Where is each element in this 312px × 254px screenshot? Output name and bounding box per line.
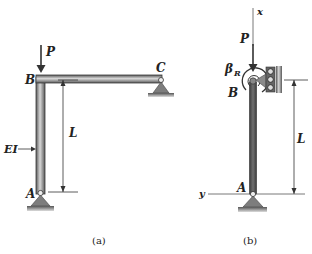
label-p: P (45, 45, 56, 59)
roller-guide-icon (256, 66, 282, 93)
label-b: B (227, 86, 238, 100)
label-y: y (198, 188, 206, 199)
label-p: P (239, 32, 250, 46)
structural-diagram: P B C L EI A (a) (0, 0, 312, 254)
label-c: C (156, 61, 166, 75)
label-beta-subscript: R (233, 68, 241, 78)
beam-bc (36, 75, 162, 83)
column-ab (36, 77, 45, 194)
label-l: L (68, 126, 77, 140)
column-ab (250, 82, 257, 194)
label-ei: EI (3, 143, 18, 156)
panel-b: x P β R B (198, 6, 308, 246)
load-arrow-icon (37, 45, 46, 73)
label-a: A (25, 187, 35, 201)
label-beta: β (224, 62, 233, 76)
ei-arrow-icon (18, 147, 36, 152)
label-x: x (256, 6, 264, 17)
label-a: A (236, 181, 246, 195)
label-l: L (296, 132, 305, 146)
panel-a: P B C L EI A (a) (3, 45, 174, 246)
label-b: B (24, 73, 35, 87)
caption-a: (a) (92, 235, 106, 246)
caption-b: (b) (243, 235, 257, 246)
